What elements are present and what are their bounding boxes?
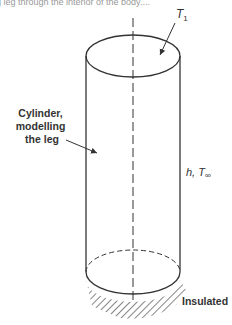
insulated-label: Insulated [182, 295, 228, 307]
cylinder-leg-diagram: g leg through the interior of the body..… [0, 0, 232, 325]
caption-fragment: g leg through the interior of the body..… [0, 0, 150, 7]
t1-label: T1 [176, 7, 188, 23]
base-mask [86, 258, 180, 294]
cylinder-label: Cylinder, modelling the leg [16, 107, 69, 145]
cylinder-arrow [66, 140, 97, 153]
convection-label: h, T∞ [186, 166, 211, 180]
